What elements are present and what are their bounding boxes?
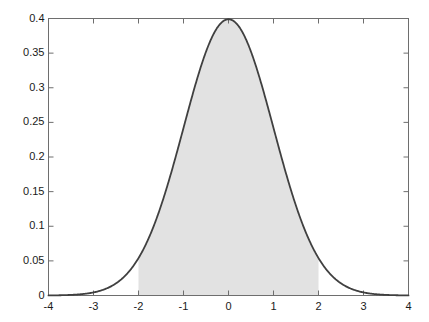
y-tick-label: 0.15 [23,186,44,197]
y-tick-label: 0.25 [23,116,44,127]
x-tick-label: 0 [209,301,249,312]
x-tick-label: 2 [299,301,339,312]
y-tick-label: 0.1 [29,220,44,231]
y-tick-label: 0 [38,290,44,301]
x-tick-label: -1 [164,301,204,312]
shaded-area-group [139,19,319,295]
x-tick-label: 3 [344,301,384,312]
y-tick-label: 0.3 [29,82,44,93]
x-tick-label: -4 [29,301,69,312]
shaded-region-minus2-to-2 [139,19,319,295]
y-tick-label: 0.2 [29,151,44,162]
y-tick-label: 0.05 [23,255,44,266]
x-tick-label: 1 [254,301,294,312]
plot-canvas [0,0,429,322]
x-tick-label: 4 [389,301,429,312]
y-tick-label: 0.4 [29,13,44,24]
y-tick-label: 0.35 [23,47,44,58]
normal-distribution-figure: 00.050.10.150.20.250.30.350.4 -4-3-2-101… [0,0,429,322]
x-tick-label: -3 [74,301,114,312]
x-tick-label: -2 [119,301,159,312]
